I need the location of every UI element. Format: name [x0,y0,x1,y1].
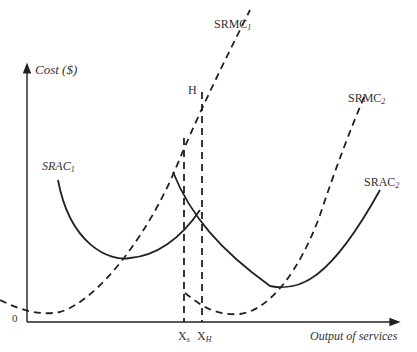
srmc2-label: SRMC2 [348,91,385,106]
srac1-label: SRAC1 [42,159,75,174]
srmc2-curve [185,95,365,314]
x-axis-label: Output of services [310,329,398,343]
srac2-label: SRAC2 [364,175,399,190]
srmc1-label: SRMC1 [214,17,251,32]
point-h-label: H [188,83,197,97]
origin-label: 0 [12,312,18,324]
xs-label: Xs [178,329,190,344]
srmc1-curve [0,10,250,313]
y-axis-label: Cost ($) [35,62,77,77]
cost-diagram: Cost ($) Output of services 0 H Xs XH SR… [0,0,417,352]
srac2-curve [173,172,380,287]
srac1-curve [58,180,200,259]
xh-label: XH [197,329,213,344]
